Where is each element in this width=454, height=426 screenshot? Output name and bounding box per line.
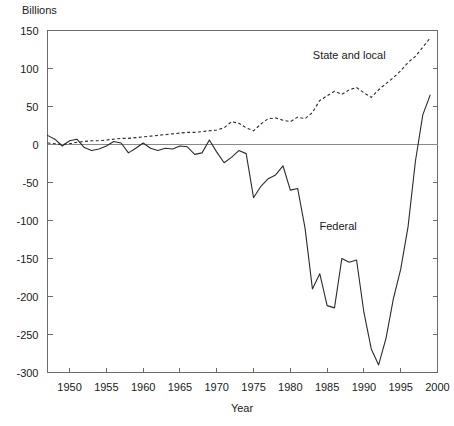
y-tick-label: -150 [16, 253, 38, 265]
y-tick-labels: 150100500-50-100-150-200-250-300 [16, 25, 38, 379]
y-tick-label: -100 [16, 215, 38, 227]
line-chart: Billions 150100500-50-100-150-200-250-30… [0, 0, 454, 426]
series-annotations: State and localFederal [313, 49, 386, 232]
x-tick-marks [70, 368, 438, 373]
series-annotation-label: Federal [320, 220, 357, 232]
x-tick-label: 1985 [315, 381, 339, 393]
x-tick-label: 1995 [388, 381, 412, 393]
y-tick-label: 100 [20, 63, 38, 75]
x-tick-label: 1955 [94, 381, 118, 393]
x-tick-label: 1965 [168, 381, 192, 393]
x-tick-label: 1970 [205, 381, 229, 393]
chart-container: Billions 150100500-50-100-150-200-250-30… [0, 0, 454, 426]
y-tick-label: -250 [16, 329, 38, 341]
series-line-federal [48, 95, 431, 365]
x-tick-label: 1950 [57, 381, 81, 393]
x-tick-label: 1960 [131, 381, 155, 393]
y-tick-label: -50 [23, 177, 39, 189]
y-tick-label: 50 [26, 101, 38, 113]
x-tick-label: 2000 [425, 381, 449, 393]
y-axis-title: Billions [22, 4, 57, 16]
x-tick-label: 1975 [241, 381, 265, 393]
x-tick-labels: 1950195519601965197019751980198519901995… [57, 381, 449, 393]
x-axis-title: Year [231, 402, 254, 414]
y-tick-label: 0 [32, 139, 38, 151]
y-tick-label: 150 [20, 25, 38, 37]
plot-frame [48, 31, 438, 373]
x-tick-label: 1980 [278, 381, 302, 393]
y-tick-label: -300 [16, 367, 38, 379]
y-tick-marks [48, 31, 438, 373]
y-tick-label: -200 [16, 291, 38, 303]
series-annotation-label: State and local [313, 49, 386, 61]
x-tick-label: 1990 [352, 381, 376, 393]
